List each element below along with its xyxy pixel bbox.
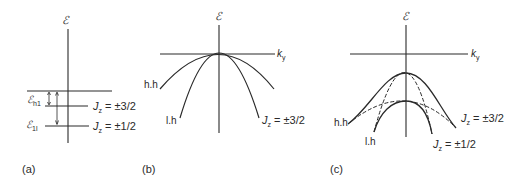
lh-label-c: l.h bbox=[365, 136, 376, 147]
jz-1-2-label-c: Jz = ±1/2 bbox=[432, 138, 476, 152]
ky-axis-label-c: ky bbox=[471, 48, 480, 62]
hh-level-label: ℰh1 bbox=[27, 94, 41, 107]
upper-solid-band-c bbox=[348, 73, 456, 128]
hh-label-b: h.h bbox=[144, 79, 158, 90]
lh-label-b: l.h bbox=[166, 115, 177, 126]
panel-c: ℰ ky h.h l.h Jz = ±3/2 Jz = ±1/2 (c) bbox=[330, 10, 504, 175]
panel-b-caption: (b) bbox=[142, 163, 155, 175]
jz-1-2-label-a: Jz = ±1/2 bbox=[92, 120, 136, 134]
lower-solid-band-c bbox=[374, 101, 432, 134]
jz-3-2-label-a: Jz = ±3/2 bbox=[92, 100, 136, 114]
panel-a-caption: (a) bbox=[22, 163, 35, 175]
lh-level-label: ℰ1l bbox=[26, 119, 38, 132]
panel-b: ℰ ky h.h l.h Jz = ±3/2 (b) bbox=[142, 10, 305, 175]
jz-3-2-label-c: Jz = ±3/2 bbox=[460, 112, 504, 126]
energy-axis-label-b: ℰ bbox=[215, 10, 223, 23]
energy-axis-label-c: ℰ bbox=[402, 10, 410, 23]
diagram-canvas: ℰ ℰh1 ℰ1l Jz = ±3/2 Jz = ±1/2 (a) bbox=[0, 0, 530, 188]
ky-axis-label-b: ky bbox=[277, 48, 286, 62]
lh-offset-arrow bbox=[56, 92, 59, 125]
heavy-hole-curve-b bbox=[160, 55, 274, 90]
panel-a: ℰ ℰh1 ℰ1l Jz = ±3/2 Jz = ±1/2 (a) bbox=[22, 14, 136, 175]
energy-axis-label-a: ℰ bbox=[62, 14, 70, 27]
hh-label-c: h.h bbox=[334, 117, 348, 128]
jz-label-b: Jz = ±3/2 bbox=[261, 114, 305, 128]
panel-c-caption: (c) bbox=[330, 163, 343, 175]
hh-offset-arrow bbox=[48, 92, 51, 105]
